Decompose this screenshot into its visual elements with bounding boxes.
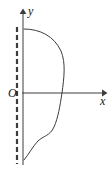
math-figure: O x y — [0, 0, 112, 173]
x-axis-label: x — [99, 94, 106, 108]
closed-curve — [24, 29, 64, 160]
origin-label: O — [8, 86, 17, 100]
coordinate-plane-diagram: O x y — [0, 0, 112, 173]
y-axis-label: y — [27, 4, 34, 18]
y-axis-arrow-icon — [20, 9, 27, 15]
